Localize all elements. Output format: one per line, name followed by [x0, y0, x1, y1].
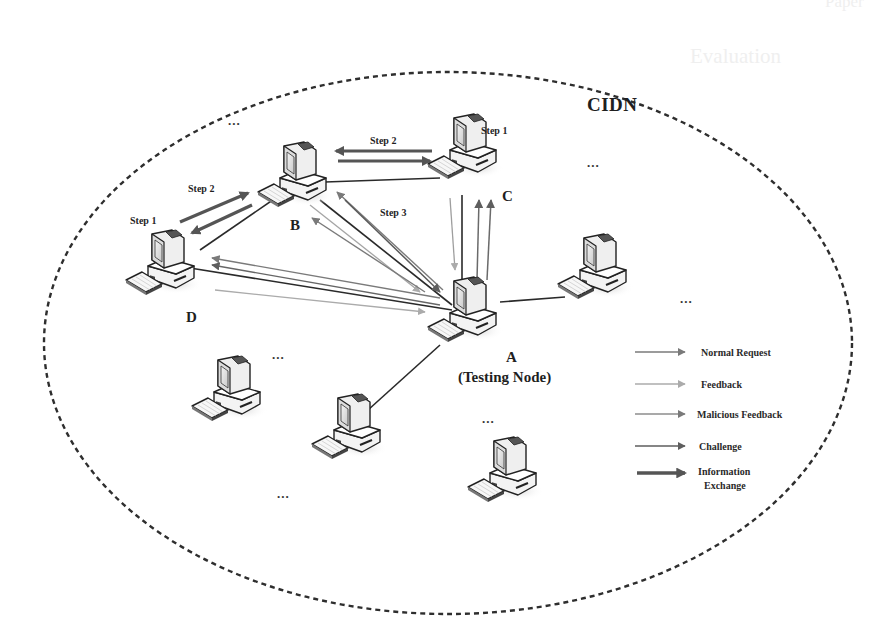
cidn-diagram: Paper Evaluation	[0, 0, 887, 642]
step-label-ba-step3: Step 3	[380, 208, 406, 218]
computer-node-bottom-right	[468, 437, 544, 502]
legend-arrows	[635, 352, 685, 473]
node-label-d: D	[186, 310, 197, 325]
cidn-boundary-ellipse	[44, 72, 852, 614]
info-exchange-arrows-db	[180, 193, 252, 233]
node-label-c: C	[502, 189, 513, 204]
computer-node-bottom-middle	[312, 394, 388, 459]
legend-normal-request: Normal Request	[701, 347, 771, 359]
legend-information-exchange-line1: Information	[698, 466, 750, 478]
step-label-d-step1: Step 1	[130, 216, 156, 226]
ellipsis-bottom-left: ...	[277, 487, 290, 500]
node-sublabel-a: (Testing Node)	[458, 370, 551, 385]
ellipsis-left: ...	[272, 348, 285, 361]
computer-node-bottom-left	[192, 356, 268, 421]
step-label-db-step2: Step 2	[188, 184, 214, 194]
legend-information-exchange-line2: Exchange	[704, 480, 746, 492]
step-label-bc-step2: Step 2	[370, 136, 396, 146]
node-label-a: A	[506, 350, 517, 365]
computer-node-c	[428, 114, 504, 179]
diagram-canvas	[0, 0, 887, 642]
step-label-c-step1: Step 1	[481, 126, 507, 136]
legend-malicious-feedback: Malicious Feedback	[697, 409, 782, 421]
arrows-d-a	[212, 258, 440, 312]
ellipsis-top-right: ...	[587, 156, 600, 169]
computer-node-d	[126, 230, 202, 295]
ellipsis-right: ...	[680, 292, 693, 305]
ellipsis-bottom-right: ...	[482, 412, 495, 425]
legend-challenge: Challenge	[699, 441, 742, 453]
ellipsis-top-left: ...	[228, 114, 241, 127]
legend-feedback: Feedback	[701, 379, 742, 391]
arrows-c-a	[450, 198, 491, 280]
network-title: CIDN	[587, 95, 638, 114]
info-exchange-arrows-bc	[336, 151, 432, 161]
computer-node-right	[558, 234, 634, 299]
computer-node-b	[258, 142, 334, 207]
node-label-b: B	[290, 218, 300, 233]
